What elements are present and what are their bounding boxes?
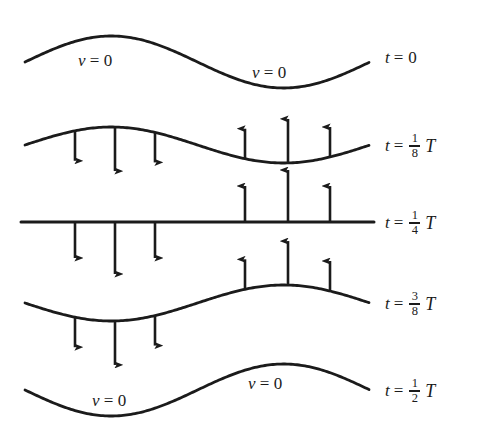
equals-sign: =: [394, 214, 404, 231]
time-fraction: 18: [409, 132, 420, 160]
period-symbol: T: [425, 214, 435, 232]
equals-sign: =: [394, 137, 404, 154]
wave-curve-t1over8: [25, 127, 369, 163]
equals-sign: =: [394, 295, 404, 312]
velocity-symbol: v: [248, 374, 256, 393]
fraction-denominator: 4: [410, 224, 420, 237]
velocity-value: = 0: [86, 51, 113, 70]
time-symbol: t: [385, 295, 390, 312]
time-fraction: 12: [409, 377, 420, 405]
time-label-t0: t=0: [385, 49, 417, 66]
fraction-denominator: 2: [410, 392, 420, 405]
velocity-zero-label: v = 0: [78, 52, 112, 69]
velocity-symbol: v: [252, 63, 260, 82]
time-fraction: 14: [409, 209, 420, 237]
time-value: 0: [408, 49, 417, 66]
period-symbol: T: [425, 382, 435, 400]
arrow-layer: [75, 119, 330, 365]
velocity-zero-label: v = 0: [92, 392, 126, 409]
fraction-denominator: 8: [410, 147, 420, 160]
time-symbol: t: [385, 382, 390, 399]
velocity-value: = 0: [260, 63, 287, 82]
velocity-symbol: v: [78, 51, 86, 70]
time-label-t1over8: t=18T: [385, 132, 435, 160]
time-symbol: t: [385, 49, 390, 66]
time-symbol: t: [385, 137, 390, 154]
fraction-numerator: 1: [410, 132, 420, 145]
time-label-t1over4: t=14T: [385, 209, 435, 237]
fraction-numerator: 1: [410, 377, 420, 390]
velocity-value: = 0: [256, 374, 283, 393]
time-fraction: 38: [409, 290, 420, 318]
period-symbol: T: [425, 137, 435, 155]
velocity-symbol: v: [92, 391, 100, 410]
period-symbol: T: [425, 295, 435, 313]
velocity-zero-label: v = 0: [248, 375, 282, 392]
equals-sign: =: [394, 382, 404, 399]
wave-curve-t0: [25, 36, 369, 88]
fraction-numerator: 1: [410, 209, 420, 222]
time-label-t1over2: t=12T: [385, 377, 435, 405]
velocity-value: = 0: [100, 391, 127, 410]
fraction-numerator: 3: [410, 290, 420, 303]
wave-curve-t1over2: [25, 364, 369, 416]
time-symbol: t: [385, 214, 390, 231]
velocity-zero-label: v = 0: [252, 64, 286, 81]
time-label-t3over8: t=38T: [385, 290, 435, 318]
standing-wave-figure: v = 0v = 0v = 0v = 0 t=0t=18Tt=14Tt=38Tt…: [0, 0, 493, 443]
wave-curve-t3over8: [25, 285, 369, 321]
fraction-denominator: 8: [410, 305, 420, 318]
equals-sign: =: [394, 49, 404, 66]
